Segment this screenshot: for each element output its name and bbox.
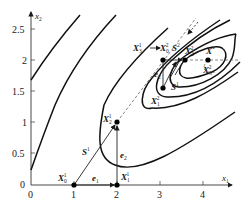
x-tick-2: 2 [114,189,119,200]
label-X3-1: X31 [132,42,142,54]
y-tick-1: 1 [22,117,27,128]
label-X-star: X* [205,46,215,56]
y-tick-2.5: 2.5 [12,24,25,35]
label-X1-1: X11 [120,171,130,183]
label-X0-2: X02 [159,42,169,54]
label-X2-1: X21 [102,113,112,125]
contour-diagram: 0 1 2 3 4 0 0.5 1 1.5 2 2.5 x1 x2 [0,0,248,209]
point-X1-2 [160,85,165,90]
y-tick-1.5: 1.5 [12,86,25,97]
x-axis-label: x1 [221,173,229,184]
y-axis-label: x2 [34,11,42,22]
point-X1-1 [114,182,119,187]
label-e2: e2 [120,150,127,161]
point-X0-1 [71,182,76,187]
contour-lines [31,15,240,170]
label-S1: S1 [82,146,90,157]
x-tick-3: 3 [157,189,162,200]
label-S1-second: S1 [171,81,179,92]
points [71,57,210,187]
contour-outer-2 [31,15,116,170]
label-e1: e1 [92,173,99,184]
label-X2-2: X22 [184,45,194,57]
x-tick-4: 4 [200,189,205,200]
point-X0-2 [160,57,165,62]
point-X2-1 [114,119,119,124]
label-e2-second: e2 [154,69,161,80]
x-tick-1: 1 [71,189,76,200]
y-tick-0: 0 [20,179,25,190]
label-X3-2: X32 [202,64,212,76]
point-X-star [205,57,210,62]
point-X2-2 [182,57,187,62]
x-tick-0: 0 [28,189,33,200]
label-X0-1: X01 [57,172,67,184]
labels: X01 X11 X21 X12 X22 X* X32 X31 X02 e1 e2… [57,42,215,184]
label-X1-2: X12 [150,95,160,107]
y-tick-0.5: 0.5 [12,148,25,159]
y-tick-2: 2 [22,55,27,66]
